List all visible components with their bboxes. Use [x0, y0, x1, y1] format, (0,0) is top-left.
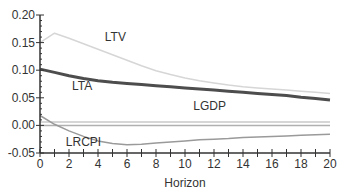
- x-tick-label: 4: [95, 157, 102, 171]
- x-tick-label: 18: [294, 157, 308, 171]
- x-tick-label: 2: [66, 157, 73, 171]
- x-tick-label: 12: [207, 157, 221, 171]
- y-tick-label: 0.10: [12, 63, 36, 77]
- y-tick-label: -0.05: [8, 146, 36, 160]
- x-axis-title: Horizon: [164, 176, 205, 190]
- series-label-ltv: LTV: [105, 30, 126, 44]
- series-label-lrcpi: LRCPI: [66, 135, 101, 149]
- x-tick-label: 10: [178, 157, 192, 171]
- impulse-response-chart: -0.050.000.050.100.150.20024681012141618…: [0, 0, 352, 196]
- y-tick-label: 0.20: [12, 8, 36, 22]
- series-label-lta: LTA: [72, 79, 92, 93]
- series-label-lgdp: LGDP: [193, 99, 226, 113]
- x-tick-label: 8: [153, 157, 160, 171]
- x-tick-label: 16: [265, 157, 279, 171]
- y-tick-label: 0.05: [12, 91, 36, 105]
- x-tick-label: 0: [37, 157, 44, 171]
- x-tick-label: 14: [236, 157, 250, 171]
- y-tick-label: 0.15: [12, 36, 36, 50]
- x-tick-label: 6: [124, 157, 131, 171]
- y-tick-label: 0.00: [12, 118, 36, 132]
- x-tick-label: 20: [323, 157, 337, 171]
